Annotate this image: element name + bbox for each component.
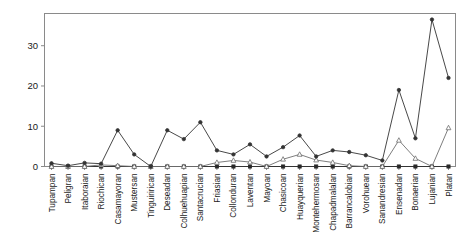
data-point-marker <box>149 165 152 168</box>
chart-figure: 0102030 TupampanPeligranItaboraianRiochi… <box>0 0 473 249</box>
x-tick-label: Tinguirirican <box>147 173 156 218</box>
data-point-marker <box>397 165 400 168</box>
data-point-marker <box>430 18 433 21</box>
x-tick-label: Colhuehuapian <box>180 173 189 229</box>
data-point-marker <box>446 125 451 129</box>
data-point-marker <box>297 152 302 156</box>
y-tick-label: 10 <box>27 121 38 132</box>
data-point-marker <box>215 165 218 168</box>
data-point-marker <box>298 134 301 137</box>
data-point-marker <box>331 149 334 152</box>
x-tick-label: Chasicoan <box>279 173 288 212</box>
line-chart: 0102030 TupampanPeligranItaboraianRiochi… <box>0 0 473 249</box>
data-point-marker <box>414 137 417 140</box>
data-point-marker <box>315 165 318 168</box>
x-tick-label: Riochican <box>97 173 106 209</box>
x-tick-label: Peligran <box>64 173 73 203</box>
x-tick-label: Tupampan <box>48 173 57 212</box>
data-point-marker <box>298 165 301 168</box>
data-point-marker <box>199 121 202 124</box>
data-point-marker <box>348 150 351 153</box>
data-point-marker <box>215 149 218 152</box>
x-tick-label: Santacrucian <box>196 173 205 221</box>
data-series-group <box>49 18 451 169</box>
x-tick-label: Bonaerian <box>411 173 420 211</box>
x-tick-label: Deseadan <box>163 173 172 211</box>
x-tick-label: Laventan <box>246 173 255 207</box>
data-point-marker <box>231 158 236 162</box>
x-tick-label: Ensenadan <box>395 173 404 215</box>
data-point-marker <box>182 137 185 140</box>
data-point-marker <box>248 143 251 146</box>
data-point-marker <box>381 159 384 162</box>
data-point-marker <box>331 165 334 168</box>
data-point-marker <box>414 165 417 168</box>
data-point-marker <box>248 165 251 168</box>
x-tick-label: Casamayoran <box>114 173 123 224</box>
data-point-marker <box>265 155 268 158</box>
x-tick-label: Huayquerian <box>296 173 305 220</box>
data-point-marker <box>364 154 367 157</box>
y-axis: 0102030 <box>27 40 44 172</box>
x-tick-label: Barrancalobian <box>345 173 354 229</box>
data-point-marker <box>116 129 119 132</box>
x-tick-labels: TupampanPeligranItaboraianRiochicanCasam… <box>48 173 454 233</box>
x-tick-label: Vorohuean <box>362 173 371 213</box>
x-tick-label: Platan <box>445 173 454 197</box>
data-point-marker <box>166 129 169 132</box>
data-point-marker <box>66 164 69 167</box>
data-point-marker <box>447 165 450 168</box>
data-point-marker <box>133 153 136 156</box>
x-tick-label: Mustersan <box>130 173 139 212</box>
data-point-marker <box>50 162 53 165</box>
data-point-marker <box>397 88 400 91</box>
x-tick-label: Montehermosan <box>312 173 321 233</box>
data-point-marker <box>396 138 401 142</box>
y-tick-label: 30 <box>27 40 38 51</box>
series-1 <box>50 18 450 168</box>
data-point-marker <box>281 145 284 148</box>
data-point-marker <box>232 153 235 156</box>
x-tick-label: Sanandresian <box>378 173 387 224</box>
data-point-marker <box>232 165 235 168</box>
x-tick-label: Lujanian <box>428 173 437 204</box>
data-point-marker <box>447 76 450 79</box>
data-point-marker <box>99 162 102 165</box>
x-tick-label: Collonduran <box>229 173 238 218</box>
x-tick-label: Friasian <box>213 173 222 203</box>
data-point-marker <box>314 155 317 158</box>
data-point-marker <box>281 165 284 168</box>
data-point-marker <box>83 161 86 164</box>
y-tick-label: 0 <box>33 161 38 172</box>
y-tick-label: 20 <box>27 80 38 91</box>
x-tick-label: Chapadmalalan <box>329 173 338 231</box>
x-tick-label: Mayoan <box>263 173 272 203</box>
x-tick-label: Itaboraian <box>81 173 90 210</box>
